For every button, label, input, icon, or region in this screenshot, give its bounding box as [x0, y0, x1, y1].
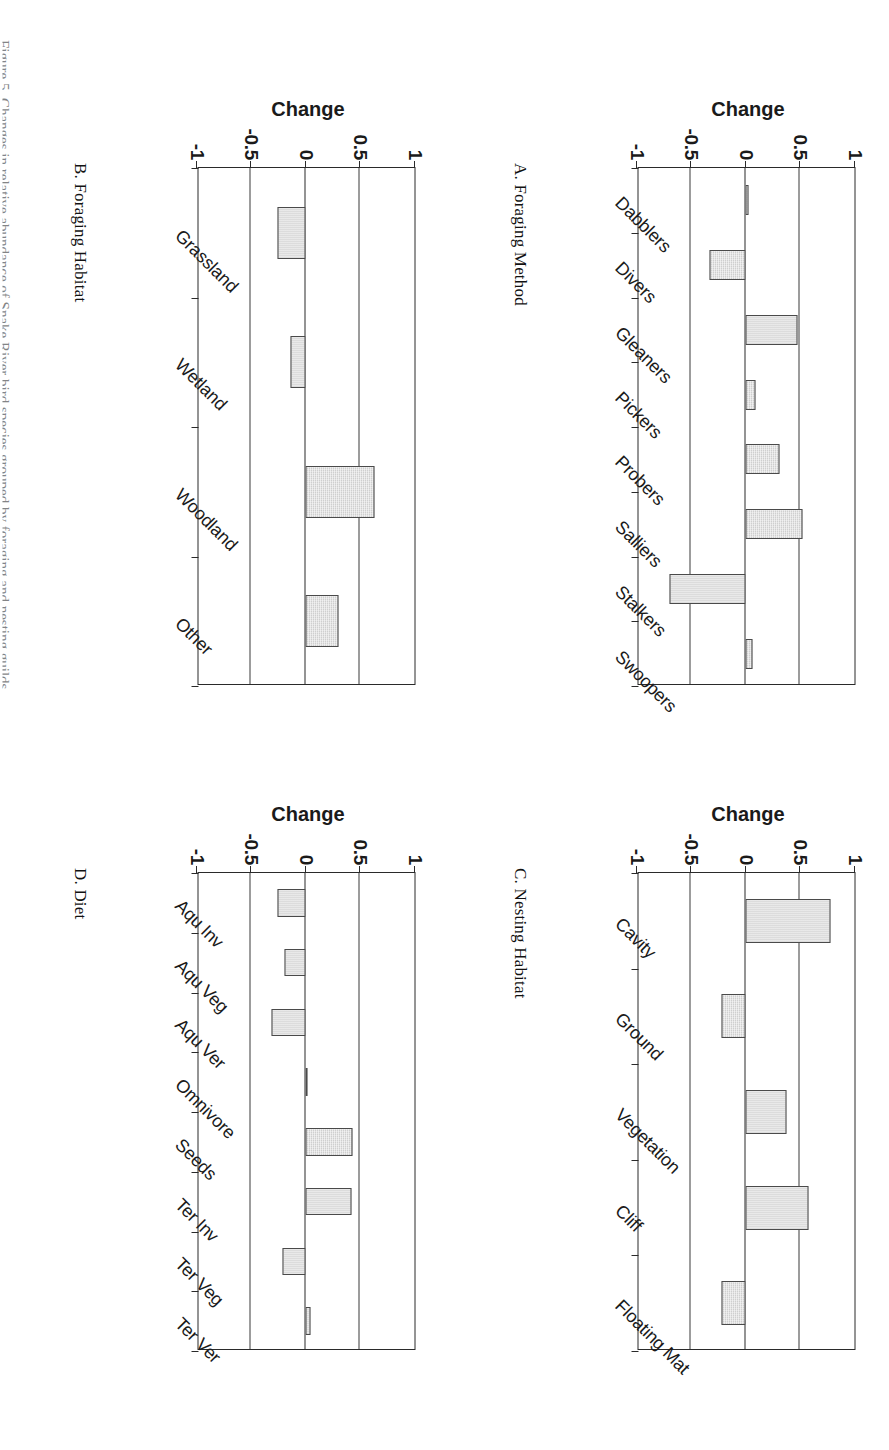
y-tick-mark [854, 866, 855, 873]
x-category-label: Dabblers [610, 193, 675, 258]
bar [745, 639, 752, 669]
panel-c-nesting-habitat: Change 10.50-0.5-1CavityGroundVegetation… [509, 800, 859, 1360]
bar [745, 185, 748, 215]
x-category-label: Grassland [170, 225, 242, 297]
gridline [799, 168, 800, 684]
y-tick-mark [250, 161, 251, 168]
panel-d-diet: Change 10.50-0.5-1Aqu InvAqu VegAqu VerO… [69, 800, 419, 1360]
bar [745, 1090, 786, 1134]
x-category-label: Pickers [610, 387, 666, 443]
zero-line [744, 168, 745, 684]
panel-a-plot-area: 10.50-0.5-1DabblersDiversGleanersPickers… [637, 167, 855, 685]
x-tick-mark [191, 168, 198, 169]
x-category-label: Stalkers [610, 581, 670, 641]
panel-b-plot-area: 10.50-0.5-1GrasslandWetlandWoodlandOther [197, 167, 415, 685]
x-tick-mark [191, 557, 198, 558]
x-tick-mark [191, 873, 198, 874]
x-tick-mark [191, 933, 198, 934]
y-tick-label: 0 [734, 855, 756, 865]
y-tick-label: 1 [403, 855, 425, 865]
x-tick-mark [631, 557, 638, 558]
x-category-label: Ground [610, 1009, 666, 1065]
x-tick-mark [631, 621, 638, 622]
gridline [799, 873, 800, 1349]
bar [745, 1186, 808, 1230]
x-category-label: Omnivore [170, 1075, 239, 1144]
y-tick-mark [414, 866, 415, 873]
y-tick-mark [745, 866, 746, 873]
x-category-label: Vegetation [610, 1105, 684, 1179]
y-tick-label: 0.5 [789, 839, 811, 865]
panel-a-foraging-method: Change 10.50-0.5-1DabblersDiversGleaners… [509, 95, 859, 695]
bar [305, 1128, 352, 1155]
y-tick-mark [250, 866, 251, 873]
panel-d-plot-area: 10.50-0.5-1Aqu InvAqu VegAqu VerOmnivore… [197, 872, 415, 1350]
bar [721, 994, 745, 1038]
x-category-label: Aqu Ver [170, 1015, 229, 1074]
x-tick-mark [631, 427, 638, 428]
y-tick-label: -0.5 [680, 833, 702, 865]
x-category-label: Ter Inv [170, 1194, 222, 1246]
y-tick-mark [636, 161, 637, 168]
gridline [359, 168, 360, 684]
y-tick-label: -0.5 [240, 833, 262, 865]
bar [721, 1281, 745, 1325]
x-tick-mark [631, 969, 638, 970]
panel-c-y-axis-title: Change [688, 803, 808, 826]
y-tick-mark [196, 866, 197, 873]
x-category-label: Swoopers [610, 646, 680, 716]
bar [745, 509, 802, 539]
x-category-label: Other [170, 614, 216, 660]
bar [305, 466, 374, 518]
panel-d-caption: D. Diet [69, 868, 89, 919]
y-tick-mark [745, 161, 746, 168]
bar [277, 889, 305, 916]
x-category-label: Ter Veg [170, 1254, 227, 1311]
panel-a-y-axis-title: Change [688, 98, 808, 121]
y-tick-mark [854, 161, 855, 168]
x-category-label: Divers [610, 258, 660, 308]
panel-c-caption: C. Nesting Habitat [509, 868, 529, 999]
x-tick-mark [631, 1351, 638, 1352]
y-tick-mark [799, 866, 800, 873]
x-tick-mark [191, 1351, 198, 1352]
x-category-label: Floating Mat [610, 1296, 693, 1379]
figure-page-caption: Figure 5. Changes in relative abundance … [2, 40, 13, 693]
y-tick-mark [305, 866, 306, 873]
x-tick-mark [191, 686, 198, 687]
bar [305, 1307, 310, 1334]
x-tick-mark [631, 686, 638, 687]
x-tick-mark [631, 1160, 638, 1161]
y-tick-label: 0.5 [349, 134, 371, 160]
y-tick-label: 1 [843, 150, 865, 160]
x-tick-mark [191, 993, 198, 994]
x-category-label: Gleaners [610, 322, 675, 387]
bar [305, 1068, 307, 1095]
bar [284, 949, 305, 976]
bar [305, 595, 338, 647]
x-tick-mark [191, 1232, 198, 1233]
y-tick-mark [359, 161, 360, 168]
x-tick-mark [631, 362, 638, 363]
x-tick-mark [631, 873, 638, 874]
x-tick-mark [191, 1291, 198, 1292]
panel-b-y-axis-title: Change [248, 98, 368, 121]
bar [282, 1248, 305, 1275]
gridline [250, 168, 251, 684]
bar [277, 207, 305, 259]
x-category-label: Seeds [170, 1134, 220, 1184]
x-tick-mark [191, 427, 198, 428]
x-category-label: Ter Ver [170, 1314, 224, 1368]
bar [305, 1188, 351, 1215]
zero-line [304, 873, 305, 1349]
x-category-label: Cavity [610, 913, 659, 962]
y-tick-mark [305, 161, 306, 168]
panel-b-foraging-habitat: Change 10.50-0.5-1GrasslandWetlandWoodla… [69, 95, 419, 695]
y-tick-label: -1 [625, 144, 647, 160]
x-category-label: Aqu Veg [170, 955, 232, 1017]
y-tick-label: -1 [625, 849, 647, 865]
y-tick-mark [690, 866, 691, 873]
figure-panel-grid: Change 10.50-0.5-1DabblersDiversGleaners… [0, 0, 889, 1450]
bar [745, 444, 779, 474]
y-tick-label: 0 [294, 855, 316, 865]
